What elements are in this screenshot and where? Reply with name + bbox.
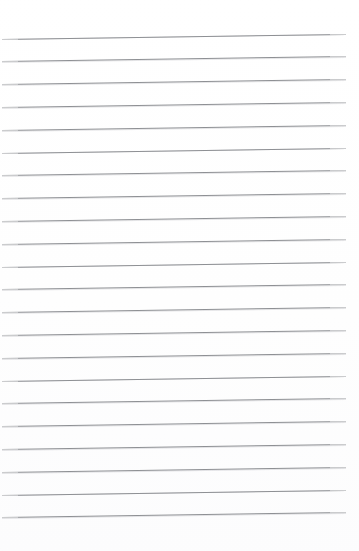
ruled-line [2, 102, 346, 108]
lined-paper-page [0, 0, 359, 551]
ruled-line [2, 307, 346, 313]
ruled-line [2, 216, 346, 222]
ruled-line [2, 148, 346, 154]
ruled-line [2, 79, 346, 85]
ruled-line [2, 330, 346, 336]
ruled-line [2, 34, 346, 40]
ruled-line [2, 262, 346, 268]
ruled-line [2, 193, 346, 199]
ruled-line [2, 376, 346, 382]
ruled-line [2, 490, 346, 496]
ruled-line [2, 421, 346, 427]
ruled-lines-group [0, 0, 359, 551]
ruled-line [2, 444, 346, 450]
